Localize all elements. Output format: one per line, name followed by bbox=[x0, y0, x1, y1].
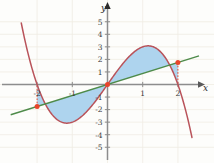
x-tick-label: -1 bbox=[69, 89, 76, 98]
y-tick-label: 3 bbox=[98, 43, 103, 52]
y-axis-label: y bbox=[100, 3, 107, 13]
x-tick-label: 1 bbox=[140, 89, 145, 98]
cubic-and-line-intersection-chart: -2-112-5-4-3-2-112345 x y bbox=[0, 0, 214, 163]
y-tick-label: -4 bbox=[95, 131, 103, 140]
point-intersection-right bbox=[175, 60, 180, 65]
y-tick-label: 4 bbox=[98, 30, 103, 39]
y-tick-label: -5 bbox=[95, 143, 103, 152]
chart-container: -2-112-5-4-3-2-112345 x y bbox=[0, 0, 214, 163]
y-tick-label: 1 bbox=[98, 68, 103, 77]
x-tick-label: -2 bbox=[33, 89, 41, 98]
x-axis-label: x bbox=[203, 83, 208, 93]
y-tick-label: -2 bbox=[95, 105, 103, 114]
y-tick-label: 2 bbox=[98, 55, 103, 64]
y-tick-label: -1 bbox=[95, 93, 102, 102]
point-intersection-left bbox=[35, 104, 40, 109]
y-tick-label: -3 bbox=[95, 118, 103, 127]
point-intersection-origin bbox=[105, 82, 110, 87]
x-tick-label: 2 bbox=[176, 89, 181, 98]
y-tick-label: 5 bbox=[98, 18, 103, 27]
